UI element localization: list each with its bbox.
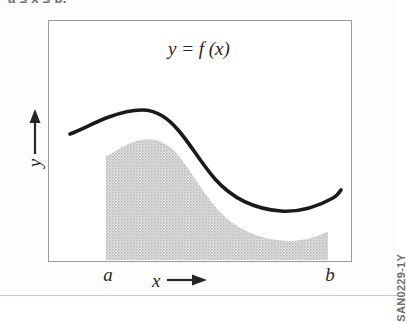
bottom-divider bbox=[0, 295, 397, 296]
y-axis-label: y bbox=[24, 148, 46, 178]
arrow-right-icon bbox=[166, 273, 208, 287]
x-axis-label: x bbox=[152, 271, 160, 290]
tick-label-a: a bbox=[96, 264, 120, 286]
x-axis-label-group: x bbox=[152, 268, 208, 292]
cropped-caption-text: a ≤ x ≤ b. bbox=[8, 0, 128, 7]
shaded-area-under-curve bbox=[106, 139, 328, 260]
function-equation-label: y = f (x) bbox=[168, 38, 230, 60]
figure-reference-code: SAN0229-1Y bbox=[395, 254, 407, 322]
y-axis-label-group: y bbox=[18, 108, 52, 188]
tick-label-b: b bbox=[318, 264, 342, 286]
